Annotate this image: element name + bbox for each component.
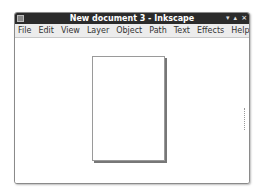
window-title: New document 3 - Inkscape [70, 14, 195, 23]
title-bar[interactable]: New document 3 - Inkscape ▾ ▴ × [15, 13, 249, 24]
minimize-icon[interactable]: ▾ [226, 13, 230, 24]
menu-help[interactable]: Help [231, 26, 249, 35]
inkscape-window: New document 3 - Inkscape ▾ ▴ × File Edi… [14, 12, 250, 184]
menu-edit[interactable]: Edit [38, 26, 54, 35]
menu-effects[interactable]: Effects [197, 26, 224, 35]
menu-layer[interactable]: Layer [87, 26, 109, 35]
menu-view[interactable]: View [61, 26, 80, 35]
menu-bar: File Edit View Layer Object Path Text Ef… [15, 24, 249, 38]
menu-object[interactable]: Object [116, 26, 142, 35]
document-page [92, 56, 165, 161]
window-menu-icon[interactable] [17, 15, 24, 22]
maximize-icon[interactable]: ▴ [234, 13, 238, 24]
menu-path[interactable]: Path [149, 26, 167, 35]
drawing-canvas[interactable] [15, 38, 249, 183]
menu-file[interactable]: File [18, 26, 31, 35]
menu-text[interactable]: Text [174, 26, 190, 35]
close-icon[interactable]: × [241, 13, 247, 24]
panel-resize-handle[interactable] [244, 108, 246, 130]
